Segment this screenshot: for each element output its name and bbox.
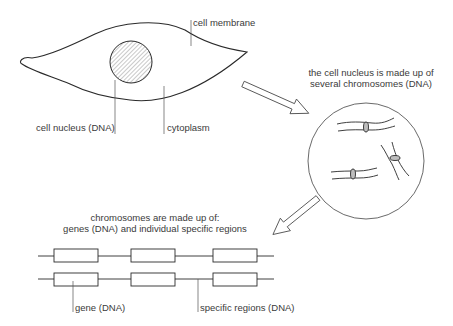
label-cytoplasm: cytoplasm [167,122,210,133]
arrow-to-chromosomes [268,192,323,241]
dna-strand-1 [38,249,274,262]
diagram-canvas [0,0,453,326]
gene-box [54,249,98,262]
gene-box [131,249,175,262]
gene-box [213,273,257,286]
chromosome-caption: chromosomes are made up of: genes (DNA) … [50,212,260,234]
label-cell-membrane: cell membrane [193,17,255,28]
label-cell-nucleus: cell nucleus (DNA) [36,122,115,133]
nucleus-zoom-circle [308,103,424,219]
chromosome-1 [337,118,395,132]
arrow-to-nucleus [240,77,312,121]
nucleus-caption-line2: several chromosomes (DNA) [306,78,436,89]
nucleus-caption-line1: the cell nucleus is made up of [306,67,436,78]
chromosome-caption-line2: genes (DNA) and individual specific regi… [50,223,260,234]
cell-nucleus [110,41,152,83]
label-specific-regions: specific regions (DNA) [200,302,295,313]
gene-box [54,273,98,286]
nucleus-caption: the cell nucleus is made up of several c… [306,67,436,89]
dna-strand-2 [38,273,274,286]
chromosome-2 [381,142,409,180]
chromosome-caption-line1: chromosomes are made up of: [50,212,260,223]
chromosome-3 [331,168,378,179]
gene-box [131,273,175,286]
label-gene: gene (DNA) [75,302,125,313]
gene-box [213,249,257,262]
